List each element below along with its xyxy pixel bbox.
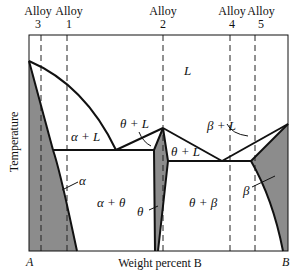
region-alpha: α xyxy=(79,173,87,188)
alloy-5-word: Alloy xyxy=(247,4,274,18)
alloy-3-word: Alloy xyxy=(24,4,51,18)
region-alpha-theta: α + θ xyxy=(97,195,126,210)
alloy-2-number: 2 xyxy=(160,17,166,31)
region-theta-beta: θ + β xyxy=(189,195,218,210)
alloy-5-number: 5 xyxy=(258,17,264,31)
alloy-4-number: 4 xyxy=(229,17,235,31)
region-alpha-liquid: α + L xyxy=(71,129,100,144)
x-axis-left-end: A xyxy=(25,255,34,269)
region-beta-liquid: β + L xyxy=(206,118,236,133)
alloy-1-word: Alloy xyxy=(55,4,82,18)
region-theta: θ xyxy=(137,204,144,219)
region-beta: β xyxy=(242,183,250,198)
region-liquid: L xyxy=(183,63,191,78)
alloy-2-word: Alloy xyxy=(149,4,176,18)
x-axis-right-end: B xyxy=(282,255,290,269)
region-theta-liquid: θ + L xyxy=(120,116,149,131)
alloy-3-number: 3 xyxy=(35,17,41,31)
region-theta-liquid-right: θ + L xyxy=(171,144,200,159)
x-axis-label: Weight percent B xyxy=(118,256,202,270)
phase-diagram: Alloy 3 Alloy 1 Alloy 2 Alloy 4 Alloy 5 … xyxy=(0,0,298,275)
alloy-4-word: Alloy xyxy=(218,4,245,18)
alpha-leader xyxy=(62,182,78,190)
alloy-1-number: 1 xyxy=(66,17,72,31)
y-axis-label: Temperature xyxy=(7,112,21,172)
